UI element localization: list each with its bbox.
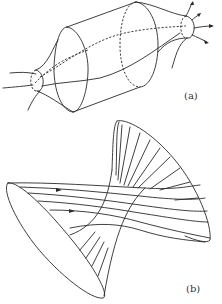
field-line-inner-1 (40, 26, 186, 77)
field-line-3 (28, 91, 40, 110)
arrow-icon (209, 24, 214, 28)
right-large-ellipse (136, 2, 158, 87)
right-flare-bottom (172, 38, 187, 68)
right-rim-edge (117, 121, 210, 242)
field-line-front-1 (42, 33, 180, 86)
arrow-icon (204, 40, 209, 44)
panel-b-hyperboloid (6, 121, 210, 299)
panel-b-label: (b) (186, 283, 200, 294)
radial-line-1 (118, 125, 122, 180)
right-large-ellipse-back (120, 2, 140, 87)
waist-line-2 (104, 188, 145, 296)
diagram-figure (0, 0, 222, 304)
panel-a-flux-tube (3, 1, 214, 112)
right-end-ellipse-back (181, 16, 187, 38)
surface-line-4 (38, 201, 208, 222)
left-end-ellipse (36, 70, 43, 91)
panel-a-label: (a) (184, 90, 198, 101)
right-flare-top (136, 2, 186, 16)
field-line-2 (3, 85, 33, 88)
arrow-icon (197, 13, 201, 17)
radial-line-8 (160, 182, 190, 190)
hatch-line-4 (98, 248, 108, 276)
left-large-ellipse (54, 27, 88, 112)
left-flare-bottom (37, 91, 73, 112)
arrow-icon (190, 1, 194, 5)
cylinder-top-edge (67, 2, 136, 27)
surface-line-2 (20, 187, 205, 199)
arrow-icon (69, 209, 75, 213)
left-rim-ellipse (6, 183, 104, 298)
